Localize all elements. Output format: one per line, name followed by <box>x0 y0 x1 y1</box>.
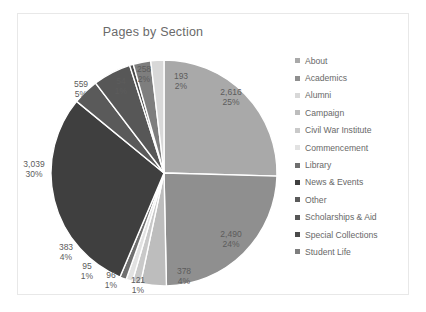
chart-legend: AboutAcademicsAlumniCampaignCivil War In… <box>295 52 407 261</box>
pie-data-label-value: 2,616 <box>217 87 245 97</box>
legend-item-other[interactable]: Other <box>295 191 407 208</box>
pie-data-label-percent: 1% <box>73 271 101 281</box>
legend-swatch-icon <box>295 145 300 150</box>
pie-data-label: 2,61625% <box>217 87 245 107</box>
pie-data-label: 3834% <box>52 242 80 262</box>
legend-item-alumni[interactable]: Alumni <box>295 87 407 104</box>
legend-item-label: Commencement <box>305 143 368 153</box>
pie-data-label: 3,03930% <box>20 159 48 179</box>
pie-data-label-value: 95 <box>73 261 101 271</box>
legend-item-news-events[interactable]: News & Events <box>295 174 407 191</box>
legend-item-label: Library <box>305 160 331 170</box>
legend-item-commencement[interactable]: Commencement <box>295 139 407 156</box>
legend-item-label: News & Events <box>305 177 363 187</box>
legend-swatch-icon <box>295 197 300 202</box>
legend-item-label: Other <box>305 195 327 205</box>
pie-chart-plot-area: 2,61625%2,49024%3784%1211%961%951%3,0393… <box>18 14 304 296</box>
legend-item-label: About <box>305 56 327 66</box>
legend-swatch-icon <box>295 76 300 81</box>
pie-data-label-percent: 30% <box>20 169 48 179</box>
legend-item-label: Academics <box>305 73 347 83</box>
legend-item-label: Special Collections <box>305 230 378 240</box>
legend-item-special-collections[interactable]: Special Collections <box>295 226 407 243</box>
pie-data-label-percent: 5% <box>67 89 95 99</box>
legend-swatch-icon <box>295 249 300 254</box>
legend-item-label: Civil War Institute <box>305 125 372 135</box>
chart-container: Pages by Section 2,61625%2,49024%3784%12… <box>17 13 409 295</box>
legend-swatch-icon <box>295 215 300 220</box>
pie-data-label-percent: 2% <box>130 74 158 84</box>
legend-item-label: Student Life <box>305 247 351 257</box>
pie-data-label-percent: 24% <box>217 239 245 249</box>
pie-data-label: 1932% <box>167 71 195 91</box>
pie-data-label-percent: 4% <box>52 252 80 262</box>
legend-swatch-icon <box>295 128 300 133</box>
legend-swatch-icon <box>295 180 300 185</box>
pie-data-label-percent: 25% <box>217 97 245 107</box>
pie-data-label: 5595% <box>67 79 95 99</box>
legend-item-label: Campaign <box>305 108 344 118</box>
legend-swatch-icon <box>295 163 300 168</box>
pie-data-label: 961% <box>97 270 125 290</box>
legend-swatch-icon <box>295 110 300 115</box>
pie-data-label-percent: 4% <box>170 276 198 286</box>
legend-swatch-icon <box>295 232 300 237</box>
legend-item-label: Alumni <box>305 90 331 100</box>
pie-data-label: 1211% <box>124 275 152 295</box>
pie-data-label-percent: 1% <box>97 280 125 290</box>
legend-item-scholarships-aid[interactable]: Scholarships & Aid <box>295 209 407 226</box>
pie-data-label-percent: 1% <box>124 285 152 295</box>
legend-swatch-icon <box>295 58 300 63</box>
legend-swatch-icon <box>295 93 300 98</box>
pie-data-label-value: 258 <box>130 64 158 74</box>
pie-data-label-value: 121 <box>124 275 152 285</box>
legend-item-academics[interactable]: Academics <box>295 69 407 86</box>
pie-data-label-percent: 1% <box>107 86 135 96</box>
legend-item-label: Scholarships & Aid <box>305 212 377 222</box>
legend-item-library[interactable]: Library <box>295 156 407 173</box>
pie-data-label-value: 559 <box>67 79 95 89</box>
pie-data-label-value: 383 <box>52 242 80 252</box>
pie-data-label-value: 193 <box>167 71 195 81</box>
legend-item-civil-war-institute[interactable]: Civil War Institute <box>295 122 407 139</box>
legend-item-campaign[interactable]: Campaign <box>295 104 407 121</box>
pie-data-label: 2582% <box>130 64 158 84</box>
pie-data-label-percent: 2% <box>167 81 195 91</box>
pie-data-label-value: 96 <box>97 270 125 280</box>
pie-data-label: 951% <box>73 261 101 281</box>
pie-data-label: 3784% <box>170 266 198 286</box>
pie-data-label-value: 378 <box>170 266 198 276</box>
legend-item-about[interactable]: About <box>295 52 407 69</box>
pie-data-label-value: 2,490 <box>217 229 245 239</box>
legend-item-student-life[interactable]: Student Life <box>295 243 407 260</box>
pie-data-label-value: 3,039 <box>20 159 48 169</box>
pie-data-label: 2,49024% <box>217 229 245 249</box>
